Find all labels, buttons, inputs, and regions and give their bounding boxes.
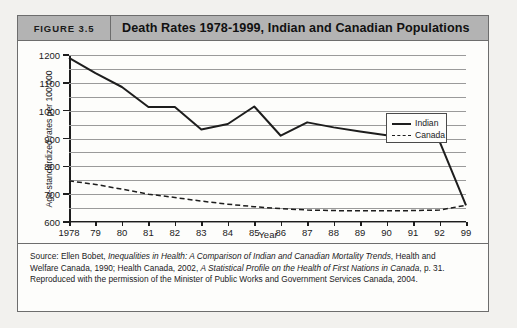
x-tick-label: 1978 xyxy=(58,227,79,238)
legend-key-solid-icon xyxy=(392,119,411,128)
series-line-canada xyxy=(69,181,466,211)
chart-legend: Indian Canada xyxy=(386,113,447,143)
x-tick-label: 84 xyxy=(223,227,234,238)
legend-item-canada: Canada xyxy=(392,129,446,141)
figure-number: FIGURE 3.5 xyxy=(18,16,111,40)
x-tick-label: 89 xyxy=(355,227,366,238)
x-tick-label: 87 xyxy=(302,227,313,238)
x-tick xyxy=(440,222,442,226)
x-tick xyxy=(281,222,283,226)
x-tick xyxy=(387,222,389,226)
x-tick-label: 85 xyxy=(249,227,260,238)
x-tick xyxy=(307,222,309,226)
x-tick xyxy=(228,222,230,226)
figure-title: Death Rates 1978-1999, Indian and Canadi… xyxy=(111,16,488,40)
source-text-1b: , Health and xyxy=(391,251,436,261)
x-tick xyxy=(334,222,336,226)
x-tick-label: 88 xyxy=(328,227,339,238)
y-tick-label: 1200 xyxy=(39,50,60,61)
y-tick-label: 800 xyxy=(44,161,60,172)
chart-body: Age-standardized rates per 100 000 Year … xyxy=(18,41,488,242)
y-tick-label: 1000 xyxy=(39,105,60,116)
x-tick-label: 81 xyxy=(143,227,154,238)
legend-item-indian: Indian xyxy=(392,117,446,129)
source-title-2: A Statistical Profile on the Health of F… xyxy=(201,263,420,273)
x-tick-label: 99 xyxy=(461,227,472,238)
x-tick xyxy=(360,222,362,226)
source-line-1: Source: Ellen Bobet, Inequalities in Hea… xyxy=(30,251,476,263)
legend-label-indian: Indian xyxy=(415,118,438,128)
x-tick xyxy=(148,222,150,226)
y-tick-label: 1100 xyxy=(40,77,60,88)
source-line-3: Reproduced with the permission of the Mi… xyxy=(30,274,476,286)
x-tick xyxy=(175,222,177,226)
x-tick-label: 83 xyxy=(196,227,207,238)
x-tick xyxy=(413,222,415,226)
x-tick-label: 92 xyxy=(434,227,445,238)
y-tick-label: 600 xyxy=(44,217,60,228)
x-tick-label: 79 xyxy=(90,227,101,238)
x-tick xyxy=(69,222,71,226)
gridline xyxy=(69,222,466,223)
x-tick-label: 86 xyxy=(275,227,286,238)
source-text-2a: Welfare Canada, 1990; Health Canada, 200… xyxy=(30,263,201,273)
x-tick-label: 80 xyxy=(117,227,128,238)
source-title-1: Inequalities in Health: A Comparison of … xyxy=(108,251,391,261)
legend-key-dashed-icon xyxy=(392,131,411,140)
x-tick-label: 90 xyxy=(381,227,392,238)
source-text-1a: Source: Ellen Bobet, xyxy=(30,251,108,261)
figure-header: FIGURE 3.5 Death Rates 1978-1999, Indian… xyxy=(18,16,488,41)
x-tick xyxy=(466,222,468,226)
x-tick xyxy=(201,222,203,226)
x-tick-label: 82 xyxy=(170,227,181,238)
x-tick-label: 91 xyxy=(408,227,419,238)
x-tick xyxy=(254,222,256,226)
y-tick-label: 700 xyxy=(44,189,60,200)
y-tick-label: 900 xyxy=(44,133,60,144)
x-tick xyxy=(122,222,124,226)
source-text-2b: , p. 31. xyxy=(419,263,444,273)
source-line-2: Welfare Canada, 1990; Health Canada, 200… xyxy=(30,263,476,275)
x-tick xyxy=(95,222,97,226)
source-block: Source: Ellen Bobet, Inequalities in Hea… xyxy=(18,243,488,311)
figure-frame: FIGURE 3.5 Death Rates 1978-1999, Indian… xyxy=(17,15,489,312)
legend-label-canada: Canada xyxy=(415,130,445,140)
